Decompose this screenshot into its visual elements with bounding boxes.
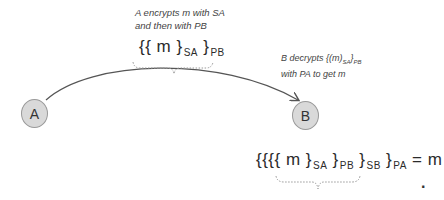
- node-a-label: A: [30, 106, 39, 122]
- formula-part: }: [381, 150, 392, 169]
- note-text: B decrypts {(m): [281, 53, 343, 63]
- right-note-line2: with PA to get m: [281, 68, 362, 80]
- node-b: B: [292, 101, 319, 130]
- top-formula: {{ m }SA }PB: [139, 37, 225, 58]
- formula-part: }: [198, 37, 209, 56]
- formula-part: }: [354, 150, 365, 169]
- right-note: B decrypts {(m)SA}PB with PA to get m: [281, 52, 362, 80]
- top-note-line2: and then with PB: [135, 19, 225, 32]
- formula-part: {{{{ m }: [256, 150, 312, 169]
- note-subscript: PB: [354, 59, 362, 65]
- bottom-formula: {{{{ m }SA }PB }SB }PA = m: [256, 150, 442, 171]
- formula-subscript: PA: [393, 160, 407, 171]
- bottom-brace: [276, 176, 360, 189]
- arrow-a-to-b: [46, 68, 298, 100]
- formula-subscript: PB: [210, 47, 224, 58]
- formula-subscript: SA: [184, 47, 198, 58]
- node-a: A: [21, 99, 48, 128]
- note-subscript: SA: [343, 59, 351, 65]
- top-note: A encrypts m with SA and then with PB: [135, 6, 225, 32]
- top-note-line1: A encrypts m with SA: [135, 6, 225, 19]
- formula-part: }: [327, 150, 338, 169]
- formula-result: = m: [407, 150, 443, 169]
- right-note-line1: B decrypts {(m)SA}PB: [281, 52, 362, 68]
- node-b-label: B: [301, 108, 310, 124]
- formula-subscript: SA: [313, 160, 327, 171]
- formula-part: {{ m }: [139, 37, 183, 56]
- formula-subscript: PB: [340, 160, 354, 171]
- formula-subscript: SB: [367, 160, 381, 171]
- trailing-mark: .: [421, 174, 425, 192]
